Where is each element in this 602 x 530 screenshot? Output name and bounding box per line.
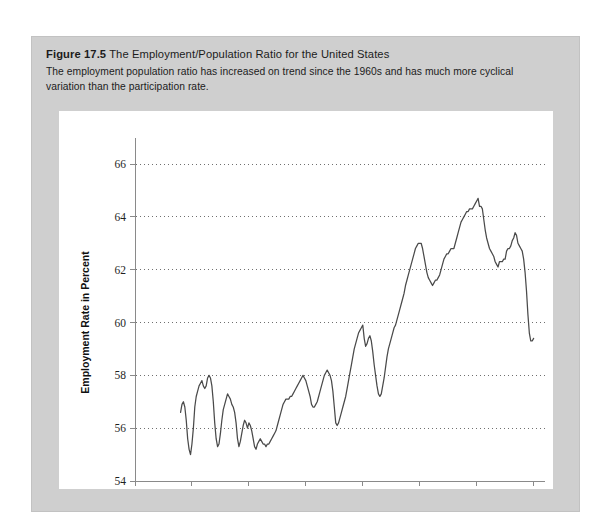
figure-title: Figure 17.5 The Employment/Population Ra… (46, 47, 566, 62)
employment-population-ratio-chart: 19401950196019701980199020002010 5456586… (59, 111, 553, 489)
figure-number: Figure 17.5 (46, 48, 106, 60)
figure-root: Figure 17.5 The Employment/Population Ra… (0, 0, 602, 530)
y-tick-label: 64 (115, 211, 127, 223)
figure-header: Figure 17.5 The Employment/Population Ra… (46, 47, 566, 94)
y-axis-title: Employment Rate in Percent (79, 251, 91, 394)
grid-lines (136, 164, 545, 428)
x-axis-ticks (135, 481, 534, 486)
employment-ratio-series-line (181, 198, 534, 454)
y-tick-label: 54 (115, 475, 127, 487)
y-tick-label: 56 (115, 422, 127, 434)
figure-caption: The employment population ratio has incr… (46, 65, 554, 94)
figure-title-text: The Employment/Population Ratio for the … (109, 48, 389, 60)
y-tick-label: 62 (115, 264, 127, 276)
y-tick-label: 58 (115, 369, 127, 381)
y-axis-ticks (130, 164, 135, 481)
y-axis-tick-labels: 54565860626466 (115, 158, 127, 487)
y-tick-label: 66 (115, 158, 127, 170)
y-tick-label: 60 (115, 317, 127, 329)
chart-plot-card: 19401950196019701980199020002010 5456586… (59, 111, 553, 489)
figure-panel: Figure 17.5 The Employment/Population Ra… (31, 36, 580, 512)
